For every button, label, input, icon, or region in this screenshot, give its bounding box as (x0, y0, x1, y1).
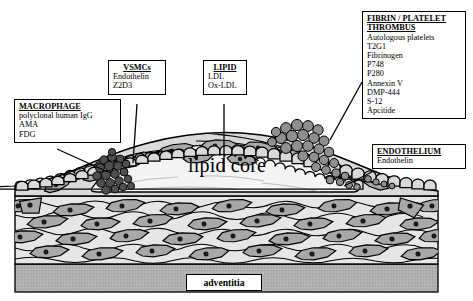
lipid-core-label: lipid core (188, 154, 266, 177)
callout-lipid-item-0: LDL (208, 72, 242, 81)
callout-vsmcs-header: VSMCs (113, 63, 161, 72)
callout-macrophage: MACROPHAGE polyclonal human IgG AMA FDG (14, 99, 121, 143)
callout-thrombus-item-2: Fibrinogen (367, 51, 461, 60)
callout-endothelium: ENDOTHELIUM Endothelin (372, 144, 466, 169)
callout-thrombus-item-4: P280 (367, 69, 461, 78)
callout-vsmcs-item-1: Z2D3 (113, 81, 161, 90)
callout-endothelium-item-0: Endothelin (377, 156, 461, 165)
callout-macrophage-header: MACROPHAGE (19, 102, 116, 111)
adventitia-label: adventitia (186, 274, 262, 291)
callout-lipid: LIPID LDL Ox-LDL (203, 60, 247, 95)
callout-thrombus-item-6: DMP-444 (367, 88, 461, 97)
callout-thrombus-header-line2: THROMBUS (367, 23, 461, 32)
callout-macrophage-item-1: AMA (19, 120, 116, 129)
callout-thrombus-item-8: Apcitide (367, 106, 461, 115)
leader-thrombus (330, 82, 362, 140)
callout-vsmcs-item-0: Endothelin (113, 72, 161, 81)
callout-thrombus-item-0: Autologous platelets (367, 33, 461, 42)
callout-endothelium-header: ENDOTHELIUM (377, 147, 461, 156)
callout-macrophage-item-0: polyclonal human IgG (19, 111, 116, 120)
callout-thrombus-item-5: Annexin V (367, 79, 461, 88)
callout-fibrin-platelet-thrombus: FIBRIN / PLATELET THROMBUS Autologous pl… (362, 11, 466, 119)
callout-thrombus-header-line1: FIBRIN / PLATELET (367, 14, 461, 23)
media-layer (2, 196, 456, 264)
callout-thrombus-item-7: S-12 (367, 97, 461, 106)
figure-canvas: MACROPHAGE polyclonal human IgG AMA FDG … (0, 0, 473, 301)
callout-lipid-header: LIPID (208, 63, 242, 72)
callout-vsmcs: VSMCs Endothelin Z2D3 (108, 60, 166, 95)
callout-thrombus-item-3: P748 (367, 60, 461, 69)
callout-thrombus-item-1: T2G1 (367, 42, 461, 51)
callout-macrophage-item-2: FDG (19, 130, 116, 139)
callout-lipid-item-1: Ox-LDL (208, 81, 242, 90)
